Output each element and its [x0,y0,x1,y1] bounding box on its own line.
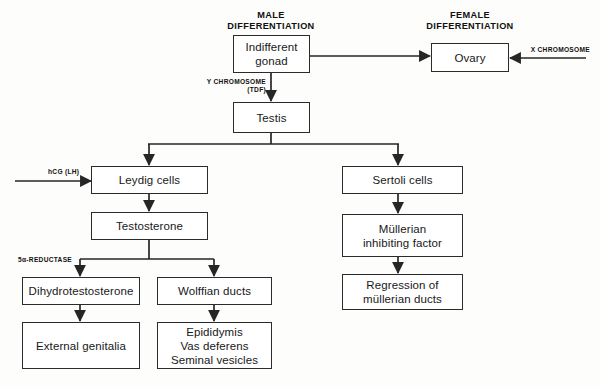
node-ovary[interactable]: Ovary [431,43,509,72]
diagram-canvas: MALE DIFFERENTIATION FEMALE DIFFERENTIAT… [0,0,600,388]
node-label: Epididymis Vas deferens Seminal vesicles [171,325,258,367]
node-label: Sertoli cells [372,173,432,187]
node-testosterone[interactable]: Testosterone [91,212,208,240]
node-sertoli-cells[interactable]: Sertoli cells [342,166,463,194]
node-label: Testis [257,111,287,125]
header-female-differentiation: FEMALE DIFFERENTIATION [405,10,535,32]
node-mullerian-inhibiting-factor[interactable]: Müllerian inhibiting factor [342,214,463,257]
node-label: Dihydrotestosterone [29,284,134,298]
node-label: Leydig cells [119,173,180,187]
node-indifferent-gonad[interactable]: Indifferent gonad [233,35,310,73]
node-label: Ovary [454,51,485,65]
node-regression-mullerian-ducts[interactable]: Regression of müllerian ducts [342,274,463,310]
node-label: Wolffian ducts [178,284,251,298]
node-wolffian-ducts[interactable]: Wolffian ducts [157,277,272,305]
node-external-genitalia[interactable]: External genitalia [22,322,140,369]
node-label: External genitalia [36,339,126,353]
header-male-differentiation: MALE DIFFERENTIATION [206,10,336,32]
edge-label-5-alpha-reductase: 5α-REDUCTASE [18,256,94,264]
node-label: Testosterone [116,219,183,233]
node-label: Indifferent gonad [245,40,297,68]
edge-label-y-chromosome: Y CHROMOSOME (TDF) [190,78,266,95]
node-dihydrotestosterone[interactable]: Dihydrotestosterone [22,277,140,305]
node-male-ducts[interactable]: Epididymis Vas deferens Seminal vesicles [157,322,272,369]
edge-label-x-chromosome: X CHROMOSOME [516,46,590,54]
node-testis[interactable]: Testis [233,102,310,133]
node-label: Regression of müllerian ducts [363,278,442,306]
node-leydig-cells[interactable]: Leydig cells [91,166,208,194]
node-label: Müllerian inhibiting factor [363,222,442,250]
